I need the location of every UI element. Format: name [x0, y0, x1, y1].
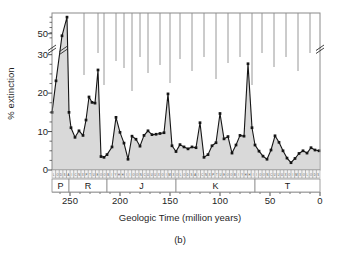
- data-point-20: [123, 142, 126, 145]
- stage-abbrev: P: [212, 173, 214, 177]
- data-point-1: [55, 79, 58, 82]
- data-point-25: [143, 134, 146, 137]
- data-point-52: [251, 126, 254, 129]
- data-point-33: [175, 150, 178, 153]
- stage-abbrev: C: [75, 173, 77, 177]
- stage-abbrev: O: [263, 173, 265, 177]
- data-point-43: [215, 141, 218, 144]
- data-point-15: [103, 156, 106, 159]
- stage-abbrev: M: [295, 173, 297, 177]
- stage-abbrev: O: [161, 173, 163, 177]
- stage-abbrev: C: [270, 173, 272, 177]
- stage-abbrev: O: [259, 173, 261, 177]
- x-axis-title: Geologic Time (million years): [0, 212, 360, 223]
- data-point-57: [270, 149, 273, 152]
- data-point-14: [100, 155, 103, 158]
- data-point-3: [66, 16, 69, 19]
- data-point-30: [163, 131, 166, 134]
- data-point-48: [235, 144, 238, 147]
- stage-abbrev: O: [56, 173, 58, 177]
- stage-abbrev: O: [183, 173, 185, 177]
- stage-abbrev: O: [176, 173, 178, 177]
- data-point-18: [115, 116, 118, 119]
- stage-abbrev: A: [67, 173, 69, 177]
- stage-abbrev: X: [158, 173, 160, 177]
- data-point-66: [306, 152, 309, 155]
- data-point-41: [207, 153, 210, 156]
- y-tick-label-10: 10: [26, 127, 48, 137]
- data-point-32: [171, 144, 174, 147]
- data-point-23: [135, 138, 138, 141]
- stage-abbrev: N: [205, 173, 207, 177]
- stage-abbrev: O: [230, 173, 232, 177]
- stage-abbrev: Y: [241, 173, 243, 177]
- stage-abbrev: O: [103, 173, 105, 177]
- data-point-68: [314, 149, 317, 152]
- data-point-60: [282, 149, 285, 152]
- stage-abbrev: U: [154, 173, 156, 177]
- data-point-61: [286, 157, 289, 160]
- stage-abbrev: X: [82, 173, 84, 177]
- stage-abbrev: O: [100, 173, 102, 177]
- data-point-49: [239, 134, 242, 137]
- stage-abbrev: H: [245, 173, 247, 177]
- figure-caption: (b): [0, 234, 360, 245]
- data-point-62: [290, 161, 293, 164]
- stage-abbrev: X: [285, 173, 287, 177]
- data-point-56: [266, 158, 269, 161]
- x-axis-tick-labels: 250200150100500: [0, 196, 360, 210]
- period-label-P: P: [57, 181, 63, 191]
- stage-abbrev: H: [118, 173, 120, 177]
- stage-abbrev: S: [191, 173, 193, 177]
- extinction-rate-figure: % extinction 010203050 250200150100500 L…: [0, 0, 360, 254]
- stage-abbrev: P: [86, 173, 88, 177]
- stage-abbrev: Y: [115, 173, 117, 177]
- data-point-35: [183, 146, 186, 149]
- data-point-59: [278, 141, 281, 144]
- stage-abbrev: U: [274, 173, 276, 177]
- stage-abbrev: O: [132, 173, 134, 177]
- data-point-44: [219, 112, 222, 115]
- stage-abbrev: E: [96, 173, 98, 177]
- data-point-4: [68, 111, 71, 114]
- data-point-65: [302, 149, 305, 152]
- data-point-26: [147, 129, 150, 132]
- data-point-24: [139, 145, 142, 148]
- data-point-67: [310, 146, 313, 149]
- data-point-51: [247, 62, 250, 65]
- y-tick-label-20: 20: [26, 88, 48, 98]
- stage-abbrev: O: [136, 173, 138, 177]
- data-point-36: [187, 148, 190, 151]
- data-point-29: [159, 132, 162, 135]
- period-label-J: J: [139, 181, 144, 191]
- stage-abbrev: N: [267, 173, 269, 177]
- data-point-45: [223, 138, 226, 141]
- stage-abbrev: U: [147, 173, 149, 177]
- stage-abbrev: U: [93, 173, 95, 177]
- stage-abbrev: C: [143, 173, 145, 177]
- data-point-5: [70, 126, 73, 129]
- x-tick-label-50: 50: [250, 196, 290, 206]
- data-point-42: [211, 144, 214, 147]
- data-point-40: [203, 156, 206, 159]
- stage-abbrev: N: [78, 173, 80, 177]
- data-point-19: [119, 131, 122, 134]
- data-point-28: [155, 133, 158, 136]
- stage-abbrev: A: [194, 173, 196, 177]
- data-point-6: [74, 136, 77, 139]
- data-point-9: [85, 119, 88, 122]
- data-point-46: [227, 135, 230, 138]
- data-point-39: [199, 121, 202, 124]
- data-point-21: [127, 158, 130, 161]
- data-point-16: [106, 153, 109, 156]
- stage-abbrev: D: [60, 173, 62, 177]
- data-point-55: [262, 155, 265, 158]
- period-label-R: R: [85, 181, 92, 191]
- stage-abbrev: B: [234, 173, 236, 177]
- data-point-17: [111, 146, 114, 149]
- stage-abbrev: X: [172, 173, 174, 177]
- data-point-13: [97, 69, 100, 72]
- data-point-50: [243, 135, 246, 138]
- data-point-47: [231, 152, 234, 155]
- y-tick-label-50: 50: [26, 29, 48, 39]
